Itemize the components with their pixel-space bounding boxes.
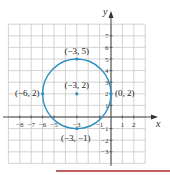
x-tick-label: −7 bbox=[27, 121, 35, 129]
data-point bbox=[41, 92, 44, 95]
y-axis-label: y bbox=[102, 6, 108, 17]
y-tick-label: −2 bbox=[101, 137, 109, 145]
y-tick-label: −3 bbox=[101, 148, 109, 156]
y-axis-arrow-icon bbox=[109, 11, 114, 18]
x-tick-label: 2 bbox=[132, 121, 136, 129]
data-point bbox=[75, 57, 78, 60]
coordinate-plot: xy −8−7−6−5−3−1127654321−1−2−3 (−3, 5)(−… bbox=[0, 0, 170, 175]
data-point bbox=[75, 92, 78, 95]
y-tick-label: 7 bbox=[105, 32, 109, 40]
point-label: (0, 2) bbox=[115, 88, 135, 98]
x-axis-label: x bbox=[155, 118, 161, 129]
point-label: (−3, 5) bbox=[65, 46, 90, 56]
point-label: (−3, 2) bbox=[65, 80, 90, 90]
point-label: (−6, 2) bbox=[15, 88, 40, 98]
x-tick-label: −6 bbox=[39, 121, 47, 129]
y-tick-label: 2 bbox=[105, 90, 109, 98]
point-label: (−3, −1) bbox=[61, 133, 91, 143]
y-tick-label: −1 bbox=[101, 125, 109, 133]
y-tick-label: 5 bbox=[105, 56, 109, 64]
x-tick-label: 1 bbox=[121, 121, 125, 129]
x-tick-label: −8 bbox=[16, 121, 24, 129]
data-point bbox=[109, 92, 112, 95]
data-point bbox=[75, 127, 78, 130]
y-tick-label: 6 bbox=[105, 44, 109, 52]
decorative-rule bbox=[56, 170, 170, 172]
